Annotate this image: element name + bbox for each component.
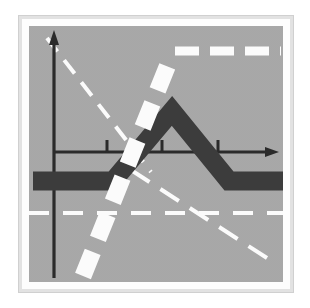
- y-axis-arrowhead: [49, 30, 59, 45]
- chart-plot-area: [29, 26, 283, 282]
- chart-svg: [29, 26, 283, 282]
- x-axis-arrowhead: [265, 147, 279, 157]
- figure-root: [0, 0, 310, 308]
- series-thick-dark-zigzag: [33, 111, 283, 181]
